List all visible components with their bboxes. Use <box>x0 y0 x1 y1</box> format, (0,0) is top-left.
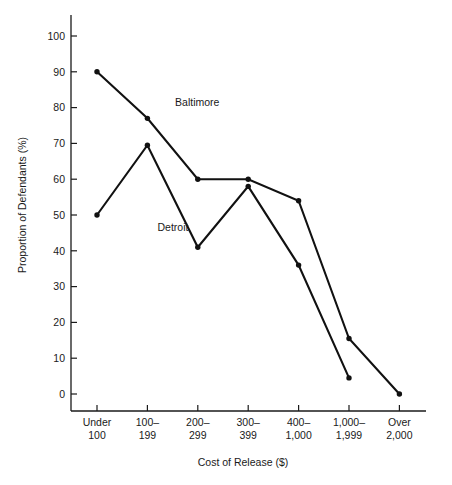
x-tick-label: 1,999 <box>336 429 362 441</box>
data-point-baltimore <box>296 198 301 203</box>
y-tick-label: 0 <box>59 388 65 400</box>
x-tick-label: Over <box>388 416 411 428</box>
y-tick-label: 10 <box>53 352 65 364</box>
x-tick-label: 199 <box>139 429 157 441</box>
x-tick-label: 100 <box>88 429 106 441</box>
y-tick-label: 50 <box>53 209 65 221</box>
x-axis: Under100100–199200–299300–399400–1,0001,… <box>71 405 426 441</box>
x-tick-label: 399 <box>239 429 257 441</box>
chart-figure: 0102030405060708090100 Under100100–19920… <box>0 0 452 485</box>
series-line-baltimore <box>97 72 399 394</box>
x-tick-label: 1,000– <box>333 416 365 428</box>
series-label-detroit: Detroit <box>157 221 188 233</box>
y-tick-label: 20 <box>53 316 65 328</box>
x-tick-label: 200– <box>186 416 210 428</box>
y-axis: 0102030405060708090100 <box>47 15 77 411</box>
x-tick-label: 299 <box>189 429 207 441</box>
data-point-baltimore <box>94 69 99 74</box>
data-point-detroit <box>346 375 351 380</box>
data-point-detroit <box>296 262 301 267</box>
data-point-baltimore <box>397 391 402 396</box>
series-annotations: BaltimoreDetroit <box>157 96 219 233</box>
x-tick-label: 300– <box>237 416 261 428</box>
x-tick-label: 2,000 <box>386 429 412 441</box>
y-tick-label: 40 <box>53 245 65 257</box>
data-point-baltimore <box>195 177 200 182</box>
x-tick-label: Under <box>83 416 112 428</box>
x-tick-label: 100– <box>136 416 160 428</box>
y-tick-label: 90 <box>53 66 65 78</box>
series-label-baltimore: Baltimore <box>175 96 220 108</box>
line-chart: 0102030405060708090100 Under100100–19920… <box>0 0 452 485</box>
data-series-group <box>94 69 402 397</box>
y-tick-label: 70 <box>53 137 65 149</box>
y-tick-label: 100 <box>47 30 65 42</box>
data-point-detroit <box>195 245 200 250</box>
y-tick-label: 80 <box>53 101 65 113</box>
data-point-baltimore <box>246 177 251 182</box>
y-tick-label: 30 <box>53 280 65 292</box>
x-axis-title: Cost of Release ($) <box>198 456 288 468</box>
data-point-detroit <box>94 212 99 217</box>
x-tick-label: 400– <box>287 416 311 428</box>
y-tick-label: 60 <box>53 173 65 185</box>
data-point-baltimore <box>346 336 351 341</box>
y-axis-title: Proportion of Defendants (%) <box>16 137 28 273</box>
data-point-detroit <box>145 142 150 147</box>
x-tick-label: 1,000 <box>285 429 311 441</box>
data-point-detroit <box>246 184 251 189</box>
data-point-baltimore <box>145 116 150 121</box>
